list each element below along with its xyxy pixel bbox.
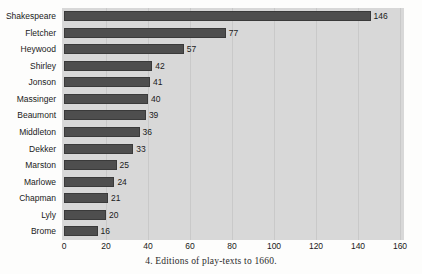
category-label-dekker: Dekker <box>0 141 56 158</box>
category-label-brome: Brome <box>0 223 56 240</box>
category-label-lyly: Lyly <box>0 207 56 224</box>
category-label-chapman: Chapman <box>0 190 56 207</box>
figure-caption: 4. Editions of play-texts to 1660. <box>0 256 422 266</box>
category-label-marlowe: Marlowe <box>0 174 56 191</box>
category-label-middleton: Middleton <box>0 124 56 141</box>
y-axis-category-labels: ShakespeareFletcherHeywoodShirleyJonsonM… <box>0 8 422 240</box>
category-label-heywood: Heywood <box>0 41 56 58</box>
category-label-shirley: Shirley <box>0 58 56 75</box>
category-label-jonson: Jonson <box>0 74 56 91</box>
category-label-marston: Marston <box>0 157 56 174</box>
category-label-shakespeare: Shakespeare <box>0 8 56 25</box>
x-tick-label-20: 20 <box>101 241 110 251</box>
x-tick-label-40: 40 <box>143 241 152 251</box>
x-axis: 020406080100120140160 <box>62 240 404 256</box>
x-tick-label-140: 140 <box>351 241 365 251</box>
category-label-beaumont: Beaumont <box>0 107 56 124</box>
figure-editions-of-play-texts: 14677574241403936332524212016 Shakespear… <box>0 0 422 274</box>
category-label-fletcher: Fletcher <box>0 25 56 42</box>
x-tick-label-160: 160 <box>393 241 407 251</box>
x-tick-label-60: 60 <box>185 241 194 251</box>
x-tick-label-80: 80 <box>227 241 236 251</box>
x-tick-label-100: 100 <box>267 241 281 251</box>
x-tick-label-0: 0 <box>62 241 67 251</box>
x-tick-label-120: 120 <box>309 241 323 251</box>
category-label-massinger: Massinger <box>0 91 56 108</box>
